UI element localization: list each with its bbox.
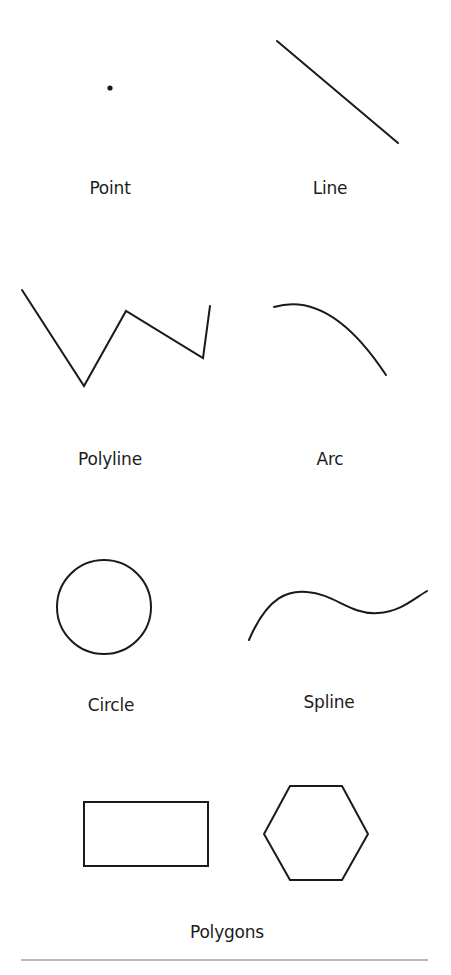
arc-label: Arc (317, 449, 344, 469)
rectangle-shape (84, 802, 208, 866)
polygons-label: Polygons (190, 922, 264, 942)
spline-label: Spline (303, 692, 354, 712)
circle-label: Circle (88, 695, 135, 715)
hexagon-shape (264, 786, 368, 880)
diagram-canvas (0, 0, 451, 975)
line-label: Line (313, 178, 348, 198)
point-label: Point (89, 178, 130, 198)
line-shape (277, 41, 398, 143)
arc-shape (274, 304, 386, 375)
polyline-label: Polyline (78, 449, 142, 469)
circle-shape (57, 560, 151, 654)
polyline-shape (22, 290, 210, 386)
point-shape (107, 85, 112, 90)
spline-shape (249, 591, 427, 640)
bottom-divider (21, 959, 428, 961)
